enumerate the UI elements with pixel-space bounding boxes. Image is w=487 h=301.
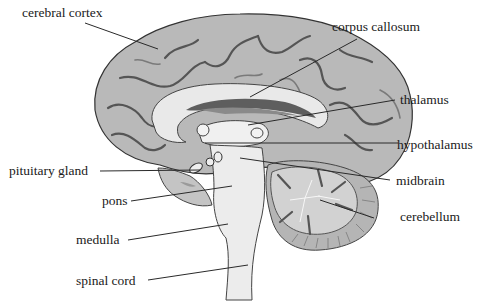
label-medulla: medulla [76, 232, 120, 247]
label-corpus-callosum: corpus callosum [332, 19, 421, 34]
label-pituitary-gland: pituitary gland [9, 163, 88, 178]
label-cerebral-cortex: cerebral cortex [22, 5, 103, 20]
label-pons: pons [102, 193, 128, 208]
label-spinal-cord: spinal cord [76, 273, 136, 288]
label-thalamus: thalamus [400, 92, 449, 107]
label-hypothalamus: hypothalamus [397, 137, 473, 152]
label-cerebellum: cerebellum [400, 209, 460, 224]
brain-diagram: cerebral cortex corpus callosum thalamus… [0, 0, 487, 301]
label-midbrain: midbrain [396, 173, 445, 188]
